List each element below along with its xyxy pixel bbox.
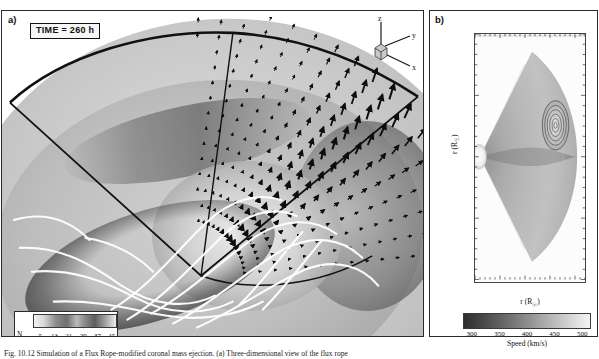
ne-subscript: e (22, 335, 24, 336)
figure-caption: Fig. 10.12 Simulation of a Flux Rope-mod… (4, 348, 595, 359)
ne-tick: 13 (47, 332, 61, 337)
ne-tick: 37 (90, 332, 104, 337)
ylabel-sub: ☉ (454, 137, 460, 142)
speed-tick: 500 (568, 330, 596, 338)
speed-tick: 450 (541, 330, 569, 338)
panel-b-label: b) (435, 15, 444, 25)
panel-b: b) (429, 10, 598, 337)
panel-b-ylabel: r (R☉) (450, 121, 461, 167)
ne-tick: 5 (33, 332, 47, 337)
panel-b-plot-area: 2001000-100-200 050100150200 (474, 33, 586, 283)
speed-colorbar-label: Speed (km/s) (463, 339, 591, 348)
speed-tick: 400 (513, 330, 541, 338)
speed-heatmap (475, 34, 585, 280)
speed-tick: 300 (458, 330, 486, 338)
electron-density-colorbar-gradient (33, 314, 117, 328)
ylabel-main: r (R (450, 142, 459, 154)
axis-triad: z y x (354, 14, 420, 76)
ylabel-tail: ) (450, 135, 459, 138)
speed-colorbar-ticks: 300350400450500 (458, 330, 596, 338)
xlabel-tail: ) (537, 297, 540, 306)
time-annotation: TIME = 260 h (30, 23, 100, 39)
electron-density-colorbar-ticks: Ne 51321293745 (15, 329, 119, 336)
ne-tick: 29 (76, 332, 90, 337)
axis-label-y: y (412, 31, 416, 40)
panel-a: TIME = 260 h z y x (1, 10, 424, 337)
electron-density-colorbar-name: Ne (15, 330, 33, 336)
speed-tick: 350 (486, 330, 514, 338)
ne-tick: 21 (62, 332, 76, 337)
xlabel-main: r (R (520, 297, 532, 306)
speed-colorbar (463, 313, 591, 329)
panel-b-xlabel: r (R☉) (474, 297, 586, 308)
axis-label-x: x (412, 63, 416, 72)
figure-root: TIME = 260 h z y x (0, 0, 599, 359)
axis-label-z: z (378, 14, 382, 23)
ne-tick: 45 (105, 332, 119, 337)
electron-density-colorbar: Ne 51321293745 (14, 311, 118, 336)
panel-a-label: a) (8, 15, 16, 25)
panel-a-canvas: TIME = 260 h z y x (2, 11, 423, 336)
